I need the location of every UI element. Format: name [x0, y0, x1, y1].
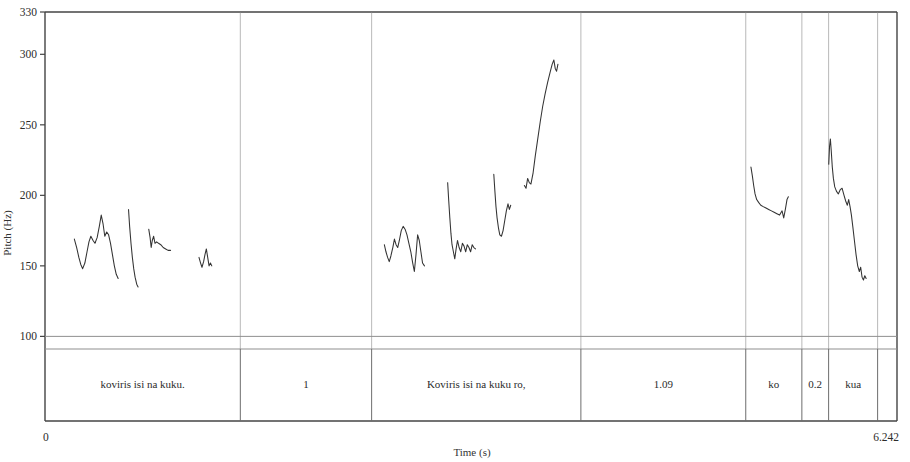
y-tick-label-200: 200 — [20, 189, 38, 201]
plot-frame — [45, 12, 897, 421]
pitch-segment-2 — [129, 209, 139, 287]
y-tick-label-330: 330 — [20, 6, 38, 18]
x-axis-title: Time (s) — [453, 446, 491, 459]
tier-cell-label-3[interactable]: 1.09 — [654, 378, 674, 390]
tier-cell-label-6[interactable]: kua — [845, 378, 861, 390]
x-axis-end-label: 6.242 — [873, 431, 899, 443]
y-axis-ticks — [40, 12, 897, 336]
pitch-curves — [74, 60, 866, 287]
pitch-segment-4 — [199, 249, 212, 267]
pitch-segment-3 — [149, 229, 171, 250]
y-axis-title: Pitch (Hz) — [1, 210, 14, 256]
pitch-segment-6 — [448, 183, 476, 259]
y-tick-label-150: 150 — [20, 260, 38, 272]
tier-cell-label-2[interactable]: Koviris isi na kuku ro, — [427, 378, 526, 390]
y-tick-label-250: 250 — [20, 119, 38, 131]
x-axis-start-label: 0 — [43, 431, 49, 443]
pitch-segment-5 — [384, 226, 424, 271]
pitch-segment-9 — [751, 167, 788, 218]
pitch-segment-10 — [829, 139, 866, 280]
tier-cell-label-1[interactable]: 1 — [303, 378, 309, 390]
pitch-contour-figure: 330300250200150100 koviris isi na kuku.1… — [0, 0, 910, 462]
y-tick-label-300: 300 — [20, 48, 38, 60]
y-tick-label-100: 100 — [20, 330, 38, 342]
tier-cell-label-5[interactable]: 0.2 — [808, 378, 822, 390]
pitch-segment-1 — [74, 215, 118, 278]
pitch-segment-8 — [524, 60, 558, 188]
pitch-plot-svg: 330300250200150100 koviris isi na kuku.1… — [0, 0, 910, 462]
pitch-segment-7 — [494, 174, 511, 236]
tier-cell-label-0[interactable]: koviris isi na kuku. — [100, 378, 185, 390]
tier-cell-label-4[interactable]: ko — [768, 378, 780, 390]
tier-dividers — [240, 12, 877, 421]
tier-cell-labels: koviris isi na kuku.1Koviris isi na kuku… — [100, 378, 861, 390]
y-tick-labels: 330300250200150100 — [20, 6, 38, 342]
